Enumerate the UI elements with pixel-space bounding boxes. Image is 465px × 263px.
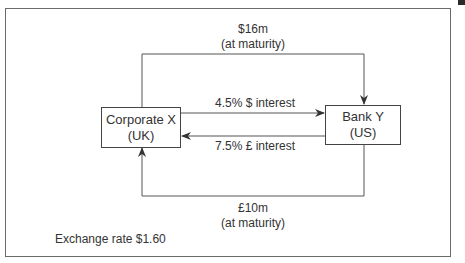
node-corporate-x-name: Corporate X bbox=[106, 112, 176, 128]
bottom-edge-label: £10m (at maturity) bbox=[203, 201, 303, 231]
node-bank-y: Bank Y (US) bbox=[325, 105, 401, 145]
bottom-edge-amount: £10m bbox=[203, 201, 303, 216]
sterling-interest-label: 7.5% £ interest bbox=[195, 139, 315, 154]
dollar-interest-label: 4.5% $ interest bbox=[195, 96, 315, 111]
top-edge-label: $16m (at maturity) bbox=[203, 22, 303, 52]
node-corporate-x: Corporate X (UK) bbox=[101, 107, 181, 148]
exchange-rate-note: Exchange rate $1.60 bbox=[55, 232, 166, 247]
top-edge-amount: $16m bbox=[203, 22, 303, 37]
node-bank-y-name: Bank Y bbox=[342, 109, 384, 125]
top-edge-timing: (at maturity) bbox=[203, 37, 303, 52]
node-bank-y-country: (US) bbox=[350, 125, 377, 141]
bottom-edge-timing: (at maturity) bbox=[203, 216, 303, 231]
node-corporate-x-country: (UK) bbox=[128, 128, 155, 144]
